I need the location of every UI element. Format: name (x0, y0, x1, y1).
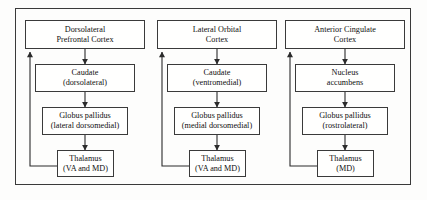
circuit-3-striatum-box[interactable]: Nucleus accumbens (295, 64, 395, 92)
circuit-2-striatum-line2: (ventromedial) (193, 78, 242, 88)
circuit-1-striatum-line2: (dorsolateral) (63, 78, 107, 88)
circuit-3-thalamus-line2: (MD) (336, 164, 355, 174)
circuit-2-thalamus-line2: (VA and MD) (195, 164, 240, 174)
circuit-1-pallidum-line1: Globus pallidus (59, 111, 111, 121)
circuit-1-cortex-line2: Prefrontal Cortex (56, 35, 113, 45)
circuit-2-cortex-box[interactable]: Lateral Orbital Cortex (157, 20, 277, 49)
circuit-2-thalamus-line1: Thalamus (201, 154, 233, 164)
circuit-1-pallidum-box[interactable]: Globus pallidus (lateral dorsomedial) (42, 107, 128, 135)
circuit-1-cortex-box[interactable]: Dorsolateral Prefrontal Cortex (25, 20, 145, 49)
circuit-1-thalamus-line2: (VA and MD) (63, 164, 108, 174)
circuit-3-cortex-box[interactable]: Anterior Cingulate Cortex (285, 20, 405, 49)
circuit-1-thalamus-box[interactable]: Thalamus (VA and MD) (57, 150, 114, 177)
circuit-1-cortex-line1: Dorsolateral (65, 25, 105, 35)
circuit-3-cortex-line2: Cortex (334, 35, 356, 45)
circuit-2-thalamus-box[interactable]: Thalamus (VA and MD) (189, 150, 246, 177)
circuit-3-striatum-line2: accumbens (327, 78, 363, 88)
circuit-3-cortex-line1: Anterior Cingulate (314, 25, 376, 35)
circuit-1-striatum-line1: Caudate (72, 68, 99, 78)
circuit-3-thalamus-box[interactable]: Thalamus (MD) (317, 150, 374, 177)
circuit-3-pallidum-box[interactable]: Globus pallidus (rostrolateral) (302, 107, 388, 135)
circuit-2-pallidum-box[interactable]: Globus pallidus (medial dorsomedial) (174, 107, 260, 135)
circuit-1-striatum-box[interactable]: Caudate (dorsolateral) (35, 64, 135, 92)
circuit-2-pallidum-line2: (medial dorsomedial) (182, 121, 252, 131)
circuit-2-striatum-box[interactable]: Caudate (ventromedial) (167, 64, 267, 92)
circuit-3-striatum-line1: Nucleus (332, 68, 359, 78)
circuit-1-thalamus-line1: Thalamus (69, 154, 101, 164)
circuit-3-pallidum-line2: (rostrolateral) (322, 121, 367, 131)
circuit-2-cortex-line2: Cortex (206, 35, 228, 45)
circuit-2-pallidum-line1: Globus pallidus (191, 111, 243, 121)
circuit-3-thalamus-line1: Thalamus (329, 154, 361, 164)
figure-canvas: Dorsolateral Prefrontal Cortex Caudate (… (0, 0, 427, 200)
circuit-3-pallidum-line1: Globus pallidus (319, 111, 371, 121)
circuit-1-pallidum-line2: (lateral dorsomedial) (51, 121, 119, 131)
circuit-2-striatum-line1: Caudate (204, 68, 231, 78)
circuit-2-cortex-line1: Lateral Orbital (193, 25, 241, 35)
